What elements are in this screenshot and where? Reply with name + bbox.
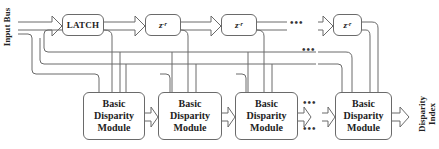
module-label-line2: Disparity: [247, 110, 287, 122]
module-label-line2: Disparity: [94, 110, 134, 122]
delay-block-3: z-r: [333, 14, 362, 36]
output-label-line2: Index: [427, 84, 437, 144]
module-label-line2: Disparity: [170, 110, 210, 122]
module-label-line1: Basic: [352, 98, 375, 110]
latch-label: LATCH: [67, 20, 99, 30]
module-label-line1: Basic: [255, 98, 278, 110]
delay-exponent: -r: [347, 21, 351, 27]
ellipsis-middle: •••: [302, 44, 316, 55]
ellipsis-module-lower: •••: [303, 123, 317, 134]
module-label-line3: Module: [250, 122, 283, 134]
module-label-line1: Basic: [179, 98, 202, 110]
delay-exponent: -r: [163, 21, 167, 27]
module-label-line3: Module: [347, 122, 380, 134]
output-label-line1: Disparity: [417, 84, 427, 144]
ellipsis-module-upper: •••: [303, 97, 317, 108]
ellipsis-top: •••: [290, 17, 304, 28]
basic-disparity-module-1: Basic Disparity Module: [83, 92, 145, 140]
basic-disparity-module-3: Basic Disparity Module: [235, 92, 298, 140]
disparity-index-label: Disparity Index: [417, 84, 437, 144]
input-bus-label: Input Bus: [2, 2, 12, 52]
delay-block-2: z-r: [221, 14, 257, 36]
disparity-pipeline-diagram: Input Bus LATCH z-r z-r z-r ••• ••• ••• …: [0, 0, 439, 149]
delay-block-1: z-r: [145, 14, 181, 36]
module-label-line2: Disparity: [344, 110, 384, 122]
latch-block: LATCH: [62, 14, 104, 36]
basic-disparity-module-2: Basic Disparity Module: [158, 92, 222, 140]
module-label-line1: Basic: [103, 98, 126, 110]
basic-disparity-module-4: Basic Disparity Module: [335, 92, 392, 140]
delay-exponent: -r: [239, 21, 243, 27]
module-label-line3: Module: [98, 122, 131, 134]
module-label-line3: Module: [174, 122, 207, 134]
